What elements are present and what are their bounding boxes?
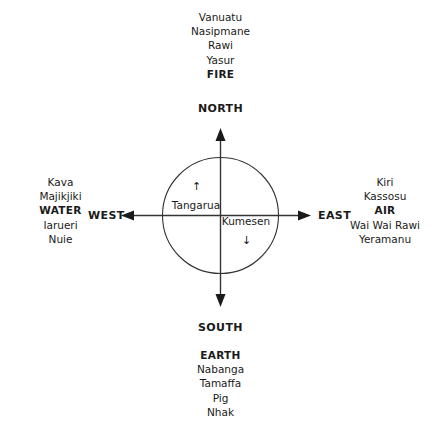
cardinal-label-north: NORTH	[0, 102, 441, 115]
element-label-air: AIR	[330, 203, 440, 217]
west-item-0: Kava	[8, 175, 113, 189]
east-item-3: Yeramanu	[330, 232, 440, 246]
quadrant-block-east: Kiri Kassosu AIR Wai Wai Rawi Yeramanu	[330, 175, 440, 246]
element-label-earth: EARTH	[0, 348, 441, 362]
diagram-canvas: NORTH SOUTH WEST EAST Vanuatu Nasipmane …	[0, 0, 441, 440]
up-arrow-icon: ↑	[192, 181, 201, 192]
east-item-1: Kassosu	[330, 189, 440, 203]
north-item-2: Rawi	[0, 38, 441, 52]
west-item-3: Nuie	[8, 232, 113, 246]
north-item-0: Vanuatu	[0, 10, 441, 24]
quadrant-block-west: Kava Majikjiki WATER Iarueri Nuie	[8, 175, 113, 246]
quadrant-block-north: Vanuatu Nasipmane Rawi Yasur FIRE	[0, 10, 441, 81]
north-arrowhead-icon	[216, 128, 226, 141]
down-arrow-icon: ↓	[242, 235, 251, 246]
north-item-1: Nasipmane	[0, 24, 441, 38]
south-arrowhead-icon	[216, 294, 226, 307]
south-item-3: Nhak	[0, 405, 441, 419]
west-item-1: Majikjiki	[8, 189, 113, 203]
south-item-2: Pig	[0, 391, 441, 405]
east-arrowhead-icon	[298, 211, 311, 221]
south-item-1: Tamaffa	[0, 376, 441, 390]
east-item-0: Kiri	[330, 175, 440, 189]
cardinal-label-south: SOUTH	[0, 321, 441, 334]
north-item-3: Yasur	[0, 53, 441, 67]
center-label-kumesen: Kumesen	[202, 215, 290, 228]
center-label-tangarua: Tangarua	[152, 199, 240, 212]
element-label-water: WATER	[8, 203, 113, 217]
east-item-2: Wai Wai Rawi	[330, 218, 440, 232]
quadrant-block-south: EARTH Nabanga Tamaffa Pig Nhak	[0, 348, 441, 419]
element-label-fire: FIRE	[0, 67, 441, 81]
west-item-2: Iarueri	[8, 218, 113, 232]
south-item-0: Nabanga	[0, 362, 441, 376]
